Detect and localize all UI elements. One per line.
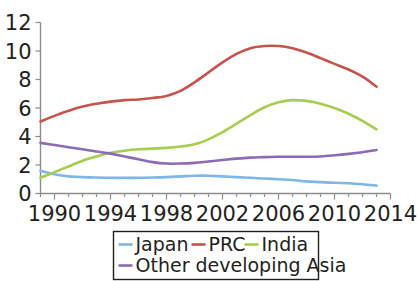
line-chart: 024681012 1990199419982002200620102014 J…	[0, 0, 417, 281]
x-tick-label: 2014	[364, 202, 417, 226]
x-axis-tick-labels: 1990199419982002200620102014	[28, 202, 417, 226]
y-axis-tick-labels: 024681012	[5, 11, 32, 206]
x-tick-label: 1990	[28, 202, 81, 226]
y-tick-label: 4	[18, 125, 31, 149]
chart-svg: 024681012 1990199419982002200620102014 J…	[0, 0, 417, 281]
legend-label-prc: PRC	[209, 233, 246, 255]
chart-series-group	[41, 46, 377, 186]
x-axis-ticks	[41, 194, 391, 200]
x-tick-label: 2010	[308, 202, 361, 226]
y-tick-label: 8	[18, 68, 31, 92]
series-line-japan	[41, 171, 377, 186]
x-tick-label: 1998	[140, 202, 193, 226]
x-tick-label: 1994	[84, 202, 137, 226]
y-tick-label: 10	[5, 40, 32, 64]
series-line-other-developing-asia	[41, 143, 377, 164]
series-line-prc	[41, 46, 377, 122]
y-tick-label: 12	[5, 11, 32, 35]
chart-legend: JapanPRCIndiaOther developing Asia	[114, 232, 347, 280]
y-axis-ticks	[36, 23, 41, 194]
y-tick-label: 2	[18, 154, 31, 178]
x-tick-label: 2006	[252, 202, 305, 226]
legend-label-japan: Japan	[135, 233, 189, 255]
x-tick-label: 2002	[196, 202, 249, 226]
legend-label-india: India	[262, 233, 309, 255]
y-tick-label: 6	[18, 97, 31, 121]
series-line-india	[41, 100, 377, 178]
legend-label-other-developing-asia: Other developing Asia	[136, 254, 347, 276]
